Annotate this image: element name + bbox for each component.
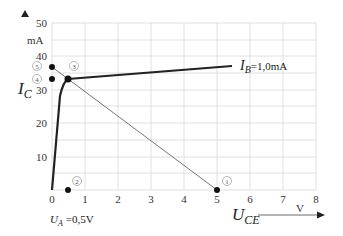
marker-5: 5 — [33, 62, 42, 71]
marker-1: 1 — [223, 177, 232, 186]
x-tick-4: 4 — [181, 193, 187, 205]
svg-text:3: 3 — [72, 63, 76, 71]
transistor-characteristic-chart: 50 40 30 20 10 mA 0 1 2 3 4 5 6 7 8 V IC… — [0, 0, 343, 236]
x-tick-5: 5 — [214, 193, 220, 205]
point-2 — [65, 187, 71, 193]
svg-text:2: 2 — [75, 178, 79, 186]
point-4 — [49, 76, 55, 82]
y-axis-arrow-icon — [21, 10, 29, 17]
y-tick-30: 30 — [36, 84, 48, 96]
y-axis-label: IC — [17, 79, 33, 101]
marker-2: 2 — [73, 177, 82, 186]
x-unit: V — [296, 202, 304, 214]
ib-label: IB=1,0mA — [239, 58, 287, 75]
x-tick-7: 7 — [280, 193, 286, 205]
point-3 — [65, 76, 72, 83]
svg-text:4: 4 — [35, 76, 39, 84]
point-5 — [49, 64, 55, 70]
x-axis-arrow-icon — [317, 212, 325, 219]
y-tick-10: 10 — [36, 151, 48, 163]
x-tick-3: 3 — [148, 193, 154, 205]
y-tick-50: 50 — [36, 17, 48, 29]
load-line — [52, 67, 217, 190]
y-tick-40: 40 — [36, 50, 48, 62]
marker-4: 4 — [33, 75, 42, 84]
svg-text:1: 1 — [225, 178, 229, 186]
ua-annotation: UA=0,5V — [50, 213, 94, 228]
y-tick-20: 20 — [36, 117, 48, 129]
point-1 — [214, 187, 220, 193]
x-axis-label: UCE — [232, 205, 260, 227]
x-tick-1: 1 — [82, 193, 88, 205]
x-tick-0: 0 — [49, 193, 55, 205]
marker-3: 3 — [70, 62, 79, 71]
x-tick-6: 6 — [247, 193, 253, 205]
x-tick-8: 8 — [313, 193, 319, 205]
ib-characteristic-curve — [52, 66, 232, 190]
svg-text:5: 5 — [35, 63, 39, 71]
x-tick-2: 2 — [115, 193, 121, 205]
y-unit: mA — [27, 34, 44, 46]
